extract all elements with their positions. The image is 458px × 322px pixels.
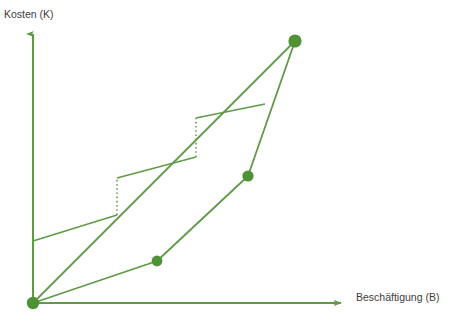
- axes-group: [33, 34, 341, 303]
- origin-ray: [33, 41, 295, 303]
- cost-function-diagram: Kosten (K) Beschäftigung (B): [0, 0, 458, 322]
- data-point-origin[interactable]: [27, 297, 39, 309]
- data-point-2[interactable]: [242, 170, 253, 181]
- y-axis-label: Kosten (K): [4, 8, 54, 20]
- data-point-3[interactable]: [288, 34, 301, 47]
- origin-ray-line: [33, 41, 295, 303]
- step-cost-curve: [33, 104, 265, 241]
- data-point-1[interactable]: [152, 256, 163, 267]
- x-axis-label: Beschäftigung (B): [356, 291, 439, 303]
- step-segment-2: [117, 157, 196, 178]
- step-segment-1: [33, 215, 117, 241]
- diagram-svg: Kosten (K) Beschäftigung (B): [0, 0, 458, 322]
